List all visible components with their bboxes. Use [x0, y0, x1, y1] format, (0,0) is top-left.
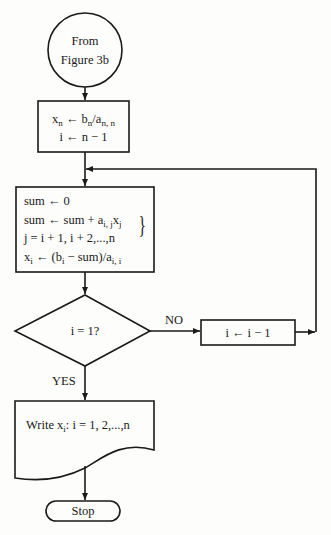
- stop-terminator: Stop: [46, 505, 120, 518]
- sum-box: sum ← 0 sum ← sum + ai, jxj j = i + 1, i…: [24, 195, 122, 263]
- sum-line1: sum ← 0: [24, 195, 122, 208]
- init-box: xn ← bn/an, n i ← n − 1: [38, 113, 129, 143]
- no-label: NO: [165, 314, 183, 327]
- init-line2: i ← n − 1: [38, 131, 129, 144]
- start-connector: From Figure 3b: [48, 35, 122, 66]
- output-text: Write xi: i = 1, 2,...,n: [26, 419, 130, 432]
- decrement-text: i ← i − 1: [201, 327, 295, 340]
- start-line2: Figure 3b: [48, 54, 122, 67]
- sum-line4: xi ← (bi − sum)/ai, i: [24, 251, 122, 264]
- yes-label: YES: [52, 375, 76, 388]
- sum-line2: sum ← sum + ai, jxj: [24, 214, 122, 227]
- flowchart-lines: [0, 0, 331, 535]
- start-line1: From: [48, 35, 122, 48]
- init-line1: xn ← bn/an, n: [38, 113, 129, 126]
- decision-text: i = 1?: [45, 325, 125, 338]
- sum-line3: j = i + 1, i + 2,...,n: [24, 232, 122, 245]
- loop-brace: }: [138, 212, 145, 238]
